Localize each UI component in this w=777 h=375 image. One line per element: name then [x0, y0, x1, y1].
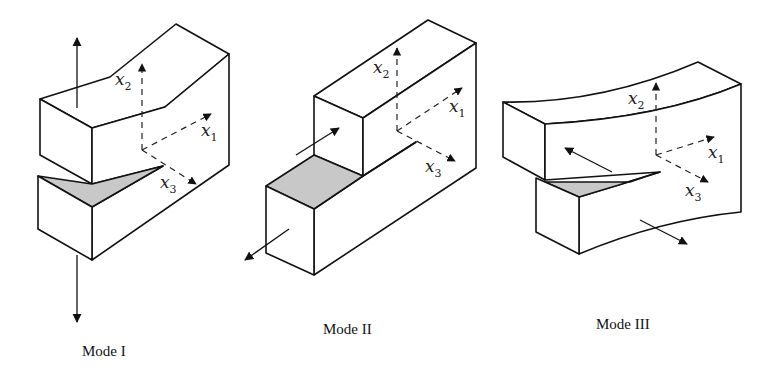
mode-2-panel: x2 x1 x3 Mode II — [245, 20, 476, 337]
mode-1-panel: x2 x1 x3 Mode I — [38, 24, 229, 359]
mode-1-caption: Mode I — [82, 343, 126, 359]
fracture-modes-diagram: x2 x1 x3 Mode I x2 x1 x3 Mode II — [0, 0, 777, 375]
mode-3-panel: x2 x1 x3 Mode III — [503, 62, 741, 332]
mode-3-caption: Mode III — [596, 316, 650, 332]
mode-2-caption: Mode II — [323, 321, 372, 337]
